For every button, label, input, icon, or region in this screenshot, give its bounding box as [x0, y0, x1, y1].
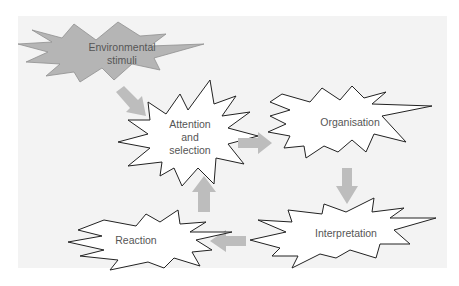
node-interpretation-label: Interpretation	[296, 227, 396, 240]
node-reaction-label: Reaction	[96, 234, 176, 247]
arrow-stimuli-to-attention	[116, 86, 146, 116]
node-attention-label: Attention and selection	[150, 118, 230, 157]
node-organisation-label: Organisation	[300, 116, 400, 129]
arrow-organisation-to-interpretation	[336, 168, 358, 204]
node-stimuli-label: Environmental stimuli	[72, 41, 172, 67]
